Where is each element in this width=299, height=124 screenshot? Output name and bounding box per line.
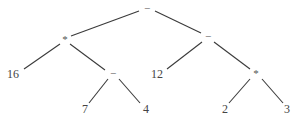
operator-node: − xyxy=(144,2,150,14)
operator-node: − xyxy=(110,67,116,79)
expression-tree-diagram: −*−16−12*7423 xyxy=(0,0,299,124)
operand-node: 16 xyxy=(7,67,19,81)
tree-edge-n2-n5 xyxy=(167,42,202,69)
operator-node: * xyxy=(253,67,259,79)
tree-edge-n0-n1 xyxy=(71,11,139,36)
tree-edge-n1-n3 xyxy=(24,44,60,69)
operand-node: 4 xyxy=(143,102,149,116)
tree-edge-n4-n8 xyxy=(119,79,140,103)
tree-edge-n4-n7 xyxy=(89,79,108,103)
tree-edge-n6-n9 xyxy=(229,79,250,103)
tree-edge-n1-n4 xyxy=(70,44,105,70)
tree-edge-n2-n6 xyxy=(214,42,250,69)
tree-edge-n0-n2 xyxy=(155,11,201,33)
operator-node: − xyxy=(205,30,211,42)
operator-node: * xyxy=(62,33,68,45)
tree-edge-n6-n10 xyxy=(262,79,283,103)
operand-node: 7 xyxy=(82,102,88,116)
tree-edges xyxy=(24,11,283,103)
tree-nodes: −*−16−12*7423 xyxy=(7,2,290,116)
operand-node: 3 xyxy=(284,102,290,116)
operand-node: 2 xyxy=(222,102,228,116)
operand-node: 12 xyxy=(151,67,163,81)
